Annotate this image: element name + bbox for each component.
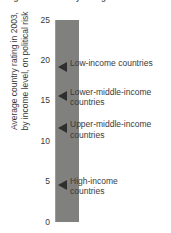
y-tick-label: 15: [24, 96, 50, 105]
y-tick-label: 10: [24, 137, 50, 146]
arrow-left-icon: [58, 91, 67, 101]
annotation-1: Low-income countries: [58, 63, 153, 72]
y-tick-label: 0: [24, 218, 50, 227]
annotation-3: Upper-middle-income countries: [58, 124, 151, 140]
y-axis-ticks: 2520151050: [22, 20, 50, 222]
annotation-4: High-income countries: [58, 181, 118, 197]
y-tick-label: 5: [24, 177, 50, 186]
arrow-left-icon: [58, 123, 67, 133]
annotation-label: Low-income countries: [70, 58, 153, 69]
y-tick-label: 25: [24, 16, 50, 25]
y-axis-label-line-1: Average country rating in 2003,: [9, 12, 20, 130]
chart-figure: Figure 4.2 Country ratings Average count…: [0, 0, 171, 233]
arrow-left-icon: [58, 180, 67, 190]
annotation-label: Lower-middle-income countries: [70, 87, 151, 108]
annotation-label: Upper-middle-income countries: [70, 119, 151, 140]
annotation-2: Lower-middle-income countries: [58, 92, 151, 108]
annotation-label: High-income countries: [70, 176, 118, 197]
y-tick-label: 20: [24, 56, 50, 65]
arrow-left-icon: [58, 62, 67, 72]
